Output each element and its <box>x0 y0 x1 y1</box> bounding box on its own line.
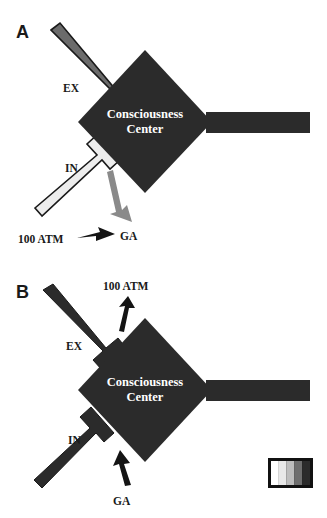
panel-a-letter: A <box>16 22 29 42</box>
panel-a-center-line1: Consciousness <box>107 107 184 121</box>
panel-b-inlet-label: IN <box>68 434 81 446</box>
panel-b-exhaust-label: EX <box>66 340 83 352</box>
panel-a-inlet-label: IN <box>65 162 78 174</box>
panel-a-exhaust-label: EX <box>63 82 80 94</box>
panel-b-letter: B <box>16 282 29 302</box>
scale-bar-swatch-0 <box>271 461 279 485</box>
grayscale-scale-bar <box>268 458 313 488</box>
scale-bar-swatch-4 <box>302 461 310 485</box>
figure-root: A EX IN Consciousness Center GA 100 ATM <box>0 0 327 518</box>
panel-b-center-line2: Center <box>127 390 164 404</box>
panel-a-gas-label: GA <box>120 230 138 242</box>
scale-bar-swatch-3 <box>294 461 302 485</box>
scale-bar-swatch-2 <box>287 461 295 485</box>
scale-bar-swatch-1 <box>279 461 287 485</box>
panel-b-pressure-label: 100 ATM <box>103 280 149 292</box>
panel-a-center-line2: Center <box>127 122 164 136</box>
panel-b-outlet-bar <box>206 380 310 401</box>
panel-a-pressure-label: 100 ATM <box>18 233 64 245</box>
panel-a-outlet-bar <box>206 112 310 133</box>
panel-b-center-line1: Consciousness <box>107 375 184 389</box>
panel-b-gas-label: GA <box>113 495 131 507</box>
